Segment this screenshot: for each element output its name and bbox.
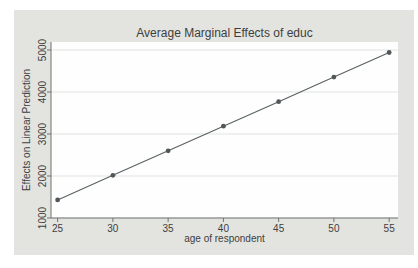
x-axis-label: age of respondent xyxy=(51,233,398,244)
y-tick-label: 4000 xyxy=(37,72,49,112)
stata-graph: Average Marginal Effects of educ Effects… xyxy=(14,10,414,255)
data-point-marker xyxy=(55,198,60,203)
y-axis-label: Effects on Linear Prediction xyxy=(21,50,33,210)
data-point-marker xyxy=(221,124,226,129)
data-point-marker xyxy=(332,75,337,80)
data-point-marker xyxy=(166,148,171,153)
y-tick-label: 2000 xyxy=(37,156,49,196)
data-point-marker xyxy=(276,99,281,104)
chart-title: Average Marginal Effects of educ xyxy=(51,26,398,40)
data-point-marker xyxy=(387,50,392,55)
y-tick-label: 5000 xyxy=(37,30,49,70)
y-tick-label: 3000 xyxy=(37,114,49,154)
line-chart-canvas xyxy=(51,42,398,218)
plot-area xyxy=(51,42,398,218)
data-point-marker xyxy=(110,173,115,178)
